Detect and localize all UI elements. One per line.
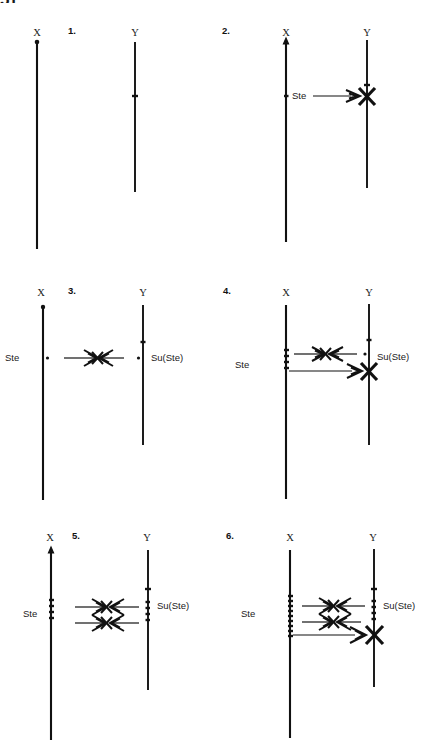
panel-5: 5. X Y Ste Su(Ste) <box>0 510 218 755</box>
panel-4: 4. X Y Ste Su(Ste) <box>217 268 435 513</box>
panel-3-x-ste-locus <box>46 356 49 359</box>
panel-3-art <box>0 268 218 513</box>
panel-2-art <box>217 8 435 253</box>
panel-2: 2. X Y Ste <box>217 8 435 253</box>
panel-3-x-centromere <box>41 305 45 309</box>
figure-panel-grid: 51 1. X Y 2. X Y Ste 3. <box>0 0 435 755</box>
panel-1-art <box>0 8 218 253</box>
panel-1-x-centromere <box>35 40 40 45</box>
panel-3: 3. X Y Ste Su(Ste) <box>0 268 218 513</box>
panel-5-x-tip-arrow <box>48 547 53 553</box>
panel-2-x-tip-arrow <box>283 38 288 44</box>
panel-5-art <box>0 510 218 755</box>
panel-6: 6. X Y Ste Su(Ste) <box>217 510 435 755</box>
panel-4-art <box>217 268 435 513</box>
panel-6-art <box>217 510 435 755</box>
panel-1: 1. X Y <box>0 8 218 253</box>
page-corner-label: 51 <box>0 0 17 3</box>
panel-4-y-suste-locus <box>363 352 366 355</box>
panel-3-y-suste-locus <box>137 356 140 359</box>
